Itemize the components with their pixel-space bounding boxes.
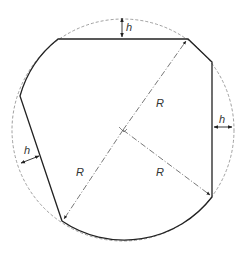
label-R-upper: R [156, 97, 164, 109]
label-h-right: h [219, 113, 225, 125]
label-h-left: h [24, 144, 30, 156]
label-h-top: h [126, 21, 132, 33]
truncated-circle-diagram: h h h R R R [0, 0, 247, 253]
radius-line-lower-left [64, 130, 123, 219]
radius-line-upper-right [123, 41, 186, 130]
label-R-lower-right: R [156, 166, 164, 178]
radius-line-lower-right [123, 130, 210, 195]
h-arrow-left [21, 156, 39, 163]
truncated-outline [20, 39, 212, 240]
label-R-lower-left: R [76, 166, 84, 178]
